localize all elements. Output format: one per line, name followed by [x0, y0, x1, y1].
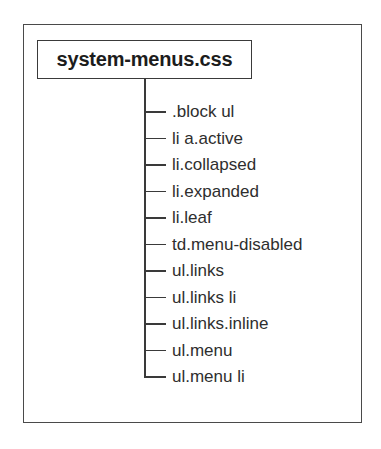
root-node: system-menus.css: [37, 40, 252, 79]
child-node-label: ul.menu: [172, 341, 232, 361]
branch-connector-line: [144, 350, 166, 352]
child-node: ul.links.inline: [144, 311, 268, 337]
child-node-label: ul.links.inline: [172, 314, 268, 334]
child-node-label: li a.active: [172, 129, 243, 149]
child-node: .block ul: [144, 99, 234, 125]
child-node: ul.links li: [144, 285, 236, 311]
branch-connector-line: [144, 217, 166, 219]
child-node-label: li.leaf: [172, 208, 212, 228]
child-node-label: li.expanded: [172, 182, 259, 202]
child-node: ul.menu li: [144, 364, 245, 390]
branch-connector-line: [144, 111, 166, 113]
branch-connector-line: [144, 244, 166, 246]
branch-connector-line: [144, 191, 166, 193]
child-node: li a.active: [144, 126, 243, 152]
branch-connector-line: [144, 297, 166, 299]
child-node-label: ul.links: [172, 261, 224, 281]
branch-connector-line: [144, 270, 166, 272]
child-node: td.menu-disabled: [144, 232, 302, 258]
child-node-label: li.collapsed: [172, 155, 256, 175]
child-node: li.expanded: [144, 179, 259, 205]
child-node: ul.menu: [144, 338, 232, 364]
branch-connector-line: [144, 376, 166, 378]
child-node-label: .block ul: [172, 102, 234, 122]
child-node-label: td.menu-disabled: [172, 235, 302, 255]
child-node: ul.links: [144, 258, 224, 284]
child-node-label: ul.menu li: [172, 367, 245, 387]
branch-connector-line: [144, 323, 166, 325]
branch-connector-line: [144, 138, 166, 140]
child-node-label: ul.links li: [172, 288, 236, 308]
child-node: li.leaf: [144, 205, 212, 231]
root-node-label: system-menus.css: [57, 48, 233, 71]
child-node: li.collapsed: [144, 152, 256, 178]
branch-connector-line: [144, 164, 166, 166]
